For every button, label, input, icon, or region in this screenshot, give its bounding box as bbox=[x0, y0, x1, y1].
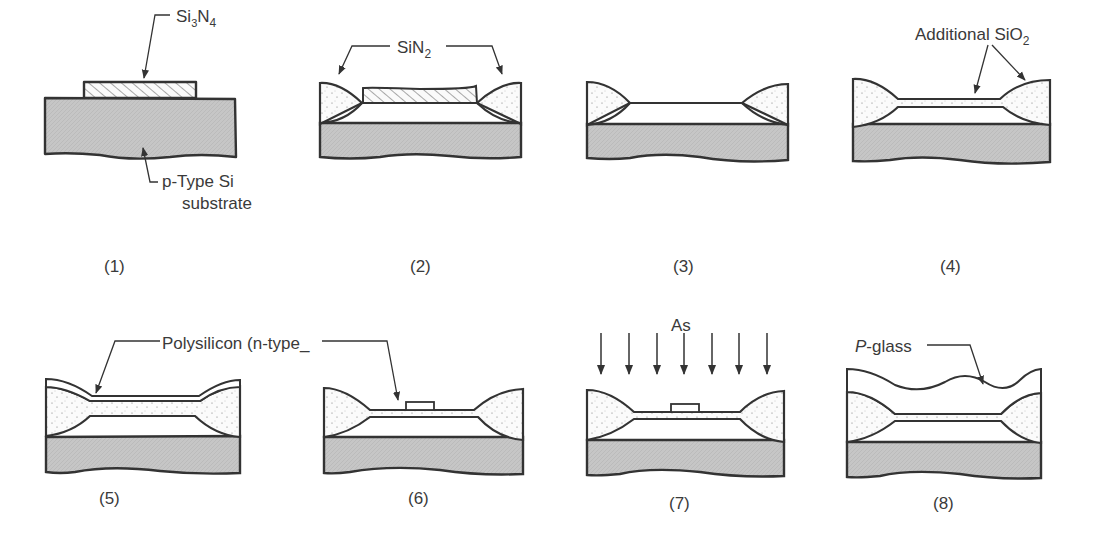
substrate bbox=[45, 98, 236, 159]
panel-3: (3) bbox=[587, 82, 788, 276]
additional-oxide bbox=[853, 79, 1050, 127]
poly-gate bbox=[406, 402, 434, 410]
caption-5: (5) bbox=[99, 489, 120, 508]
label-substrate-line2: substrate bbox=[182, 194, 252, 213]
nitride-mask bbox=[363, 86, 477, 103]
caption-3: (3) bbox=[673, 257, 694, 276]
panel-8: P-glass (8) bbox=[847, 337, 1041, 513]
caption-6: (6) bbox=[408, 489, 429, 508]
caption-4: (4) bbox=[940, 257, 961, 276]
label-polysilicon: Polysilicon (n-type_ bbox=[162, 334, 310, 353]
label-si3n4: Si3N4 bbox=[176, 7, 217, 30]
process-diagram: Si3N4 p-Type Si substrate (1) SiN2 (2) (… bbox=[0, 0, 1102, 537]
implant-arrows bbox=[601, 333, 767, 374]
caption-8: (8) bbox=[933, 494, 954, 513]
label-substrate-line1: p-Type Si bbox=[162, 172, 234, 191]
label-additional-sio2: Additional SiO2 bbox=[915, 25, 1030, 48]
panel-4: Additional SiO2 (4) bbox=[853, 25, 1050, 276]
panel-6: (6) bbox=[324, 388, 523, 508]
panel-2: SiN2 (2) bbox=[320, 38, 521, 276]
caption-1: (1) bbox=[104, 257, 125, 276]
panel-7: As (7) bbox=[587, 316, 784, 513]
label-sin2: SiN2 bbox=[397, 38, 431, 61]
si3n4-layer bbox=[84, 82, 196, 98]
label-as: As bbox=[671, 316, 691, 335]
caption-7: (7) bbox=[669, 494, 690, 513]
caption-2: (2) bbox=[410, 257, 431, 276]
label-p-glass: P-glass bbox=[855, 337, 912, 356]
panel-1: Si3N4 p-Type Si substrate (1) bbox=[45, 7, 252, 276]
